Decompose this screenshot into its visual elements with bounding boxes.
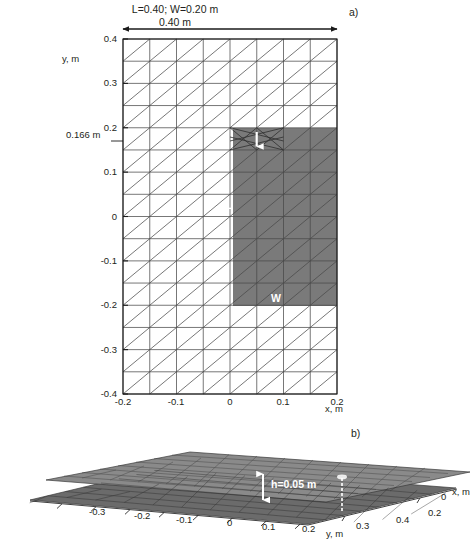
panel-b-ytick: -0.2	[134, 511, 150, 521]
panel-a-tag: a)	[349, 7, 358, 18]
panel-b-x-axis-label: x, m	[452, 487, 470, 497]
panel-b-y-axis-label: y, m	[326, 529, 343, 539]
panel-a-ytick: 0.4	[85, 34, 117, 44]
panel-a-ytick: 0	[85, 212, 117, 222]
panel-b-xtick: 0.2	[428, 508, 441, 518]
panel-a-mesh	[123, 39, 337, 394]
panel-a-xtick: -0.1	[156, 397, 196, 407]
panel-b-ytick: 0.1	[262, 522, 275, 532]
panel-b-ytick: -0.1	[176, 515, 192, 525]
panel-b-height-label: h=0.05 m	[271, 479, 316, 490]
panel-a-xtick: 0.2	[317, 397, 357, 407]
panel-a-xtick: 0.1	[263, 397, 303, 407]
panel-a-title-line2: 0.40 m	[0, 17, 350, 28]
panel-b-ytick: 0	[227, 518, 232, 528]
panel-a-ytick: 0.3	[85, 78, 117, 88]
panel-a-xtick: -0.2	[103, 397, 143, 407]
panel-a-shaded-region	[233, 128, 337, 306]
panel-a-ytick-marks	[123, 39, 128, 394]
panel-a-ytick: -0.2	[85, 300, 117, 310]
panel-a-region-width-label: W	[271, 293, 281, 304]
panel-a-ytick: 0.1	[85, 167, 117, 177]
panel-b-ytick: 0.2	[302, 524, 315, 534]
panel-b-ytick: -0.3	[89, 507, 105, 517]
panel-a-y-axis-label: y, m	[62, 54, 79, 64]
panel-a-xtick: 0	[210, 397, 250, 407]
panel-b-xtick: 0	[441, 492, 446, 502]
panel-b-tag: b)	[351, 428, 360, 439]
panel-b-ytick: 0.4	[396, 515, 409, 525]
panel-a-ytick: -0.1	[85, 256, 117, 266]
panel-a-ytick: 0.2	[85, 123, 117, 133]
panel-a-title-line1: L=0.40; W=0.20 m	[0, 4, 350, 15]
panel-b-ytick: 0.3	[356, 521, 369, 531]
panel-a-region-length-label: L	[226, 200, 232, 211]
panel-a-ytick: -0.3	[85, 345, 117, 355]
